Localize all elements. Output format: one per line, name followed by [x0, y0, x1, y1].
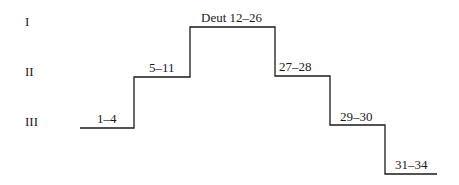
step-label-27-28: 27–28: [279, 60, 312, 74]
step-label-29-30: 29–30: [340, 110, 373, 124]
deuteronomy-structure-diagram: I II III 1–4 5–11 Deut 12–26 27–28 29–30…: [0, 0, 459, 185]
step-label-31-34: 31–34: [395, 158, 428, 172]
staircase-lines: [0, 0, 459, 185]
step-label-deut-12-26: Deut 12–26: [201, 11, 262, 25]
step-label-5-11: 5–11: [149, 61, 175, 75]
step-label-1-4: 1–4: [97, 112, 117, 126]
